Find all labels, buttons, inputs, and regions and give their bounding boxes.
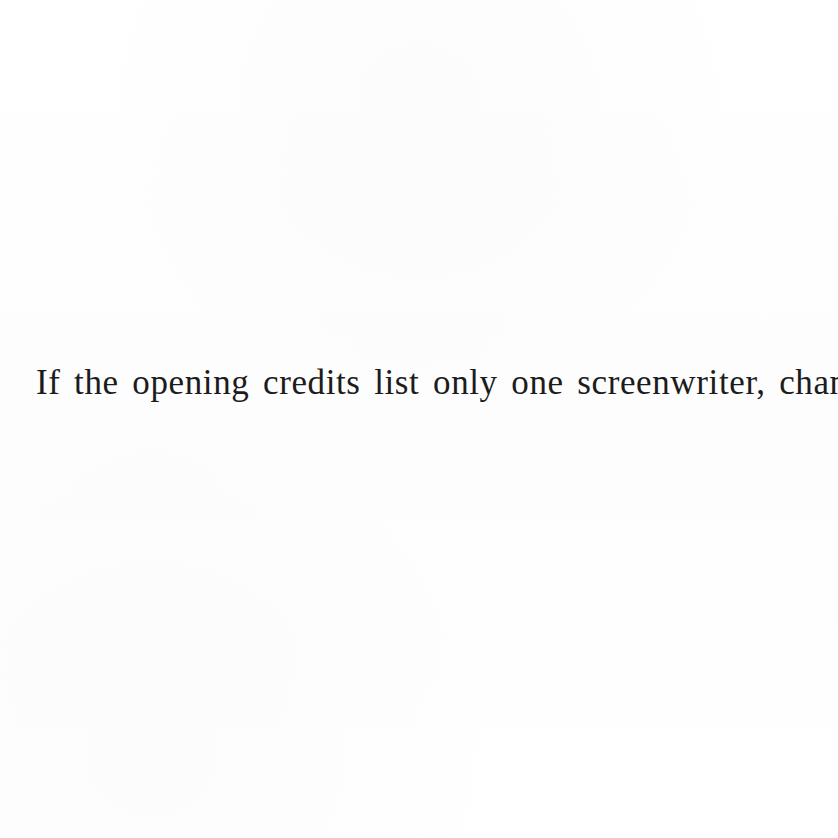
body-text-line-1: If the opening credits list only one scr… [36,362,824,404]
scanned-page: If the opening credits list only one scr… [0,0,838,838]
paper-texture [0,0,838,838]
body-text-block: If the opening credits list only one scr… [0,362,838,404]
